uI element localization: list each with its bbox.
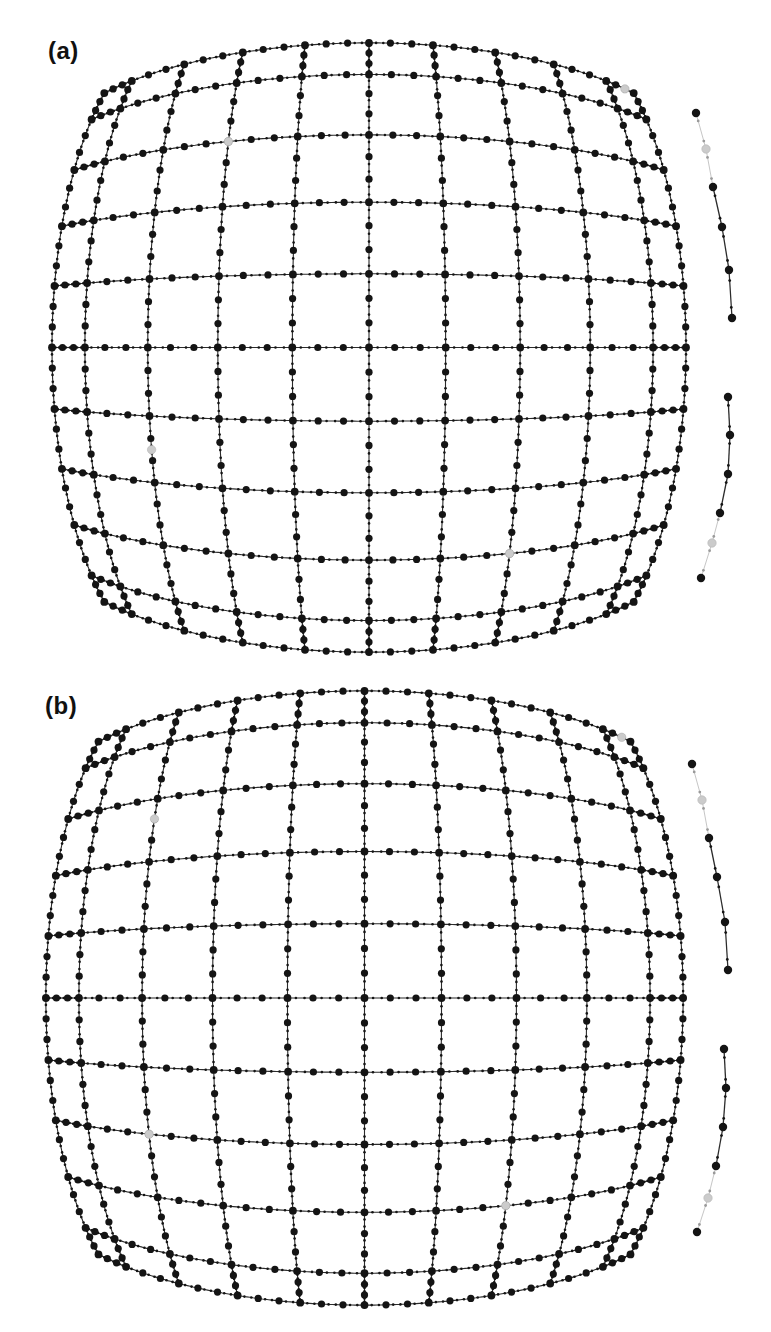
grid-node	[630, 598, 638, 606]
grid-tick	[133, 1131, 136, 1134]
grid-dot	[491, 416, 498, 423]
grid-dot	[512, 52, 519, 59]
grid-tick	[666, 842, 669, 845]
grid-tick	[104, 785, 107, 788]
grid-tick	[368, 264, 371, 267]
grid-node	[441, 271, 449, 279]
grid-dot	[628, 278, 635, 285]
grid-tick	[113, 413, 116, 416]
grid-tick	[574, 825, 577, 828]
grid-tick	[624, 563, 627, 566]
grid-dot	[115, 1245, 122, 1252]
grid-tick	[587, 270, 590, 273]
grid-dot	[321, 72, 328, 79]
grid-tick	[229, 487, 232, 490]
grid-tick	[682, 1011, 685, 1014]
grid-tick	[359, 201, 362, 204]
grid-tick	[508, 559, 511, 562]
grid-tick	[647, 254, 650, 257]
grid-dot	[85, 258, 92, 265]
grid-tick	[589, 481, 592, 484]
grid-tick	[157, 183, 160, 186]
grid-tick	[368, 106, 371, 109]
grid-tick	[397, 923, 400, 926]
grid-tick	[128, 929, 131, 932]
grid-tick	[85, 882, 88, 885]
grid-dot	[167, 108, 174, 115]
grid-tick	[52, 394, 55, 397]
grid-tick	[382, 651, 385, 654]
grid-tick	[363, 775, 366, 778]
grid-node	[289, 417, 297, 425]
grid-tick	[501, 140, 504, 143]
grid-tick	[361, 42, 364, 45]
grid-dot	[535, 205, 542, 212]
grid-tick	[295, 1257, 298, 1260]
grid-dot	[483, 136, 490, 143]
grid-tick	[563, 796, 566, 799]
grid-dot	[583, 1018, 590, 1025]
grid-dot	[382, 688, 389, 695]
grid-tick	[501, 640, 504, 643]
grid-tick	[483, 1295, 486, 1298]
grid-tick	[497, 700, 500, 703]
grid-tick	[112, 997, 115, 1000]
grid-tick	[311, 43, 314, 46]
grid-tick	[62, 218, 65, 221]
grid-tick	[177, 628, 180, 631]
grid-tick	[286, 956, 289, 959]
grid-node	[442, 344, 450, 352]
grid-dot	[550, 1271, 557, 1278]
grid-node	[365, 198, 373, 206]
grid-tick	[204, 1068, 207, 1071]
grid-tick	[370, 690, 373, 693]
grid-tick	[51, 374, 54, 377]
grid-node	[239, 49, 247, 57]
grid-tick	[368, 460, 371, 463]
grid-tick	[546, 61, 549, 64]
grid-tick	[322, 1143, 325, 1146]
grid-tick	[86, 931, 89, 934]
grid-dot	[497, 1242, 504, 1249]
grid-tick	[637, 474, 640, 477]
grid-tick	[410, 273, 413, 276]
grid-tick	[368, 552, 371, 555]
grid-tick	[243, 81, 246, 84]
grid-node	[644, 1059, 652, 1067]
grid-tick	[637, 218, 640, 221]
grid-tick	[648, 968, 651, 971]
grid-tick	[368, 522, 371, 525]
grid-tick	[402, 346, 405, 349]
grid-dot	[223, 159, 230, 166]
grid-tick	[646, 778, 649, 781]
grid-tick	[460, 726, 463, 729]
grid-dot	[437, 897, 444, 904]
grid-tick	[183, 208, 186, 211]
grid-dot	[361, 825, 368, 832]
grid-dot	[114, 803, 121, 810]
grid-dot	[562, 414, 569, 421]
grid-tick	[78, 1004, 81, 1007]
grid-dot	[210, 946, 217, 953]
grid-dot	[260, 46, 267, 53]
grid-dot	[130, 211, 137, 218]
grid-dot	[70, 798, 77, 805]
grid-tick	[286, 76, 289, 79]
grid-tick	[158, 1067, 161, 1070]
grid-tick	[646, 247, 649, 250]
grid-tick	[288, 1134, 291, 1137]
grid-tick	[568, 784, 571, 787]
grid-tick	[585, 1051, 588, 1054]
grid-tick	[148, 407, 151, 410]
grid-node	[361, 1208, 369, 1216]
grid-tick	[142, 943, 145, 946]
grid-node	[154, 1193, 162, 1201]
grid-dot	[365, 222, 372, 229]
grid-dot	[85, 810, 92, 817]
grid-node	[640, 764, 648, 772]
grid-dot	[309, 994, 316, 1001]
grid-tick	[518, 283, 521, 286]
grid-dot	[656, 930, 663, 937]
grid-dot	[55, 446, 62, 453]
grid-tick	[221, 213, 224, 216]
